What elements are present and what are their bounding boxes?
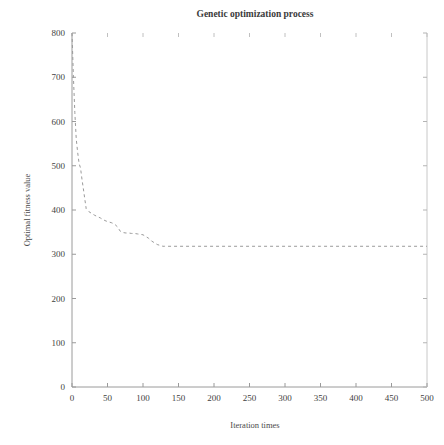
y-tick-label: 100 [52, 338, 66, 348]
y-axis-label: Optimal fitness value [22, 173, 32, 246]
x-tick-label: 150 [172, 393, 186, 403]
x-tick-label: 0 [70, 393, 75, 403]
x-tick-label: 200 [207, 393, 221, 403]
y-tick-label: 200 [52, 294, 66, 304]
genetic-optimization-line-chart: Genetic optimization process 01002003004… [0, 0, 444, 445]
x-tick-label: 100 [136, 393, 150, 403]
y-tick-label: 400 [52, 205, 66, 215]
x-tick-label: 50 [103, 393, 113, 403]
x-tick-label: 500 [420, 393, 434, 403]
x-tick-label: 350 [314, 393, 328, 403]
y-tick-label: 300 [52, 249, 66, 259]
x-tick-label: 300 [278, 393, 292, 403]
x-tick-label: 450 [385, 393, 399, 403]
x-tick-label: 400 [349, 393, 363, 403]
y-tick-label: 0 [61, 382, 66, 392]
y-tick-label: 600 [52, 117, 66, 127]
y-tick-label: 800 [52, 28, 66, 38]
figure-background [0, 0, 444, 445]
y-tick-label: 500 [52, 161, 66, 171]
x-axis-label: Iteration times [230, 420, 279, 430]
chart-title: Genetic optimization process [197, 9, 314, 19]
x-tick-label: 250 [243, 393, 257, 403]
chart-figure: Genetic optimization process 01002003004… [0, 0, 444, 445]
y-tick-label: 700 [52, 72, 66, 82]
